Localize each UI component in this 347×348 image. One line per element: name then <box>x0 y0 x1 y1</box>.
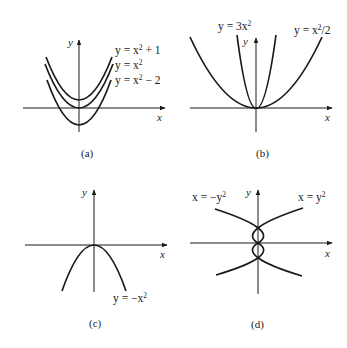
caption-c: (c) <box>89 317 102 330</box>
label-x2-minus-2: y = x2 − 2 <box>115 73 161 87</box>
panel-d: y x x = −y2 x = y2 (d) <box>190 186 332 331</box>
panel-a: y x y = x2 + 1 y = x2 y = x2 − 2 (a) <box>23 36 165 160</box>
y-axis-label: y <box>242 35 248 47</box>
caption-b: (b) <box>256 147 269 160</box>
label-x2: y = x2 <box>115 58 143 72</box>
y-axis-label: y <box>67 36 73 48</box>
label-x-eq-neg-y2: x = −y2 <box>192 190 226 204</box>
panel-b: y x y = 3x2 y = x2/2 (b) <box>190 19 332 160</box>
x-axis-label: x <box>156 111 162 123</box>
y-axis-label: y <box>245 186 251 198</box>
parabola-figure: y x y = x2 + 1 y = x2 y = x2 − 2 (a) y x… <box>0 0 347 348</box>
caption-d: (d) <box>251 318 264 331</box>
caption-a: (a) <box>81 147 94 160</box>
label-x2-over-2: y = x2/2 <box>294 23 331 37</box>
label-x2-plus-1: y = x2 + 1 <box>115 43 161 57</box>
x-axis-label: x <box>324 247 330 259</box>
label-neg-x2: y = −x2 <box>113 291 147 305</box>
label-x-eq-y2: x = y2 <box>298 190 326 204</box>
y-axis-label: y <box>81 186 87 198</box>
x-axis-label: x <box>324 111 330 123</box>
panel-c: y x y = −x2 (c) <box>25 186 167 330</box>
label-3x2: y = 3x2 <box>218 19 252 33</box>
x-axis-label: x <box>159 248 165 260</box>
